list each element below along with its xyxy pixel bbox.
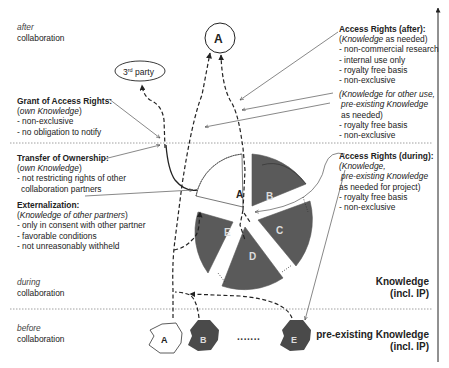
pie-label-a: A xyxy=(236,189,243,200)
phase-during: during collaboration xyxy=(17,277,65,298)
knowledge-pie: A B C D E xyxy=(195,154,312,290)
transfer-curve xyxy=(166,145,197,190)
annotation-transfer-ownership: Transfer of Ownership: (own Knowledge) -… xyxy=(17,153,126,194)
level-knowledge: Knowledge (incl. IP) xyxy=(376,276,429,300)
level-pre-existing: pre-existing Knowledge (incl. IP) xyxy=(316,329,429,353)
svg-text:A: A xyxy=(161,335,168,345)
annotation-externalization: Externalization: (Knowledge of other par… xyxy=(17,200,145,251)
pre-existing-knowledge: A B ······· E xyxy=(149,320,311,353)
annotation-grant-access-rights: Grant of Access Rights: (own Knowledge) … xyxy=(17,96,112,137)
phase-before: before collaboration xyxy=(17,323,65,344)
pie-segment-e xyxy=(195,212,233,273)
pie-segment-b xyxy=(252,154,306,206)
annotation-access-rights-during: Access Rights (during): (Knowledge, pre-… xyxy=(339,151,433,212)
after-partner-label: A xyxy=(214,32,223,46)
pie-label-e: E xyxy=(224,227,231,238)
pie-label-d: D xyxy=(249,251,256,262)
pie-label-c: C xyxy=(276,225,283,236)
phase-after: after collaboration xyxy=(17,22,65,43)
svg-text:B: B xyxy=(200,335,207,345)
svg-text:E: E xyxy=(291,335,297,345)
ellipsis: ······· xyxy=(237,334,260,345)
pie-label-b: B xyxy=(266,191,273,202)
annotation-access-rights-after: Access Rights (after): (Knowledge as nee… xyxy=(339,24,439,140)
